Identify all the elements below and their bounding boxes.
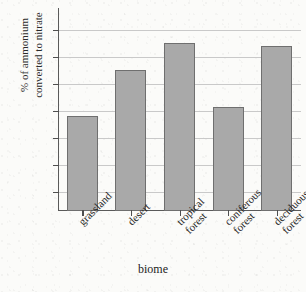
bar-grassland: [67, 116, 98, 211]
bar-tropical-forest: [164, 43, 195, 211]
x-axis-title: biome: [0, 262, 306, 277]
y-axis-title-line-1: % of ammonium: [18, 18, 32, 92]
y-tick-mark: [53, 30, 59, 31]
y-tick-mark: [53, 192, 59, 193]
y-tick-mark: [53, 57, 59, 58]
y-axis-title: % of ammonium converted to nitrate: [15, 0, 49, 135]
y-axis-title-line-2: converted to nitrate: [32, 12, 46, 98]
y-tick-mark: [53, 84, 59, 85]
bar-desert: [115, 70, 146, 211]
gridline: [58, 30, 301, 31]
y-tick-mark: [53, 138, 59, 139]
bar-deciduous-forest: [261, 46, 292, 211]
y-tick-mark: [53, 111, 59, 112]
bar-coniferous-forest: [213, 107, 244, 211]
plot-area: 20304050607080: [58, 8, 301, 211]
y-tick-mark: [53, 165, 59, 166]
chart-figure: % of ammonium converted to nitrate 20304…: [0, 0, 306, 292]
